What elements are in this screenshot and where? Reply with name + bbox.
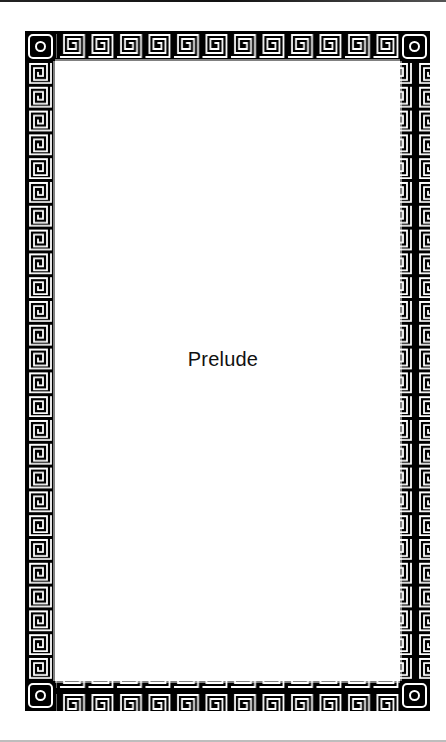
page-title: Prelude [0,348,446,371]
corner-ornament-top-right [400,32,429,61]
meander-border-graphic [25,31,430,711]
corner-ornament-top-left [26,32,55,61]
greek-key-border [25,31,430,711]
page-top-edge [0,0,446,2]
corner-ornament-bottom-left [26,681,55,710]
corner-ornament-bottom-right [400,681,429,710]
